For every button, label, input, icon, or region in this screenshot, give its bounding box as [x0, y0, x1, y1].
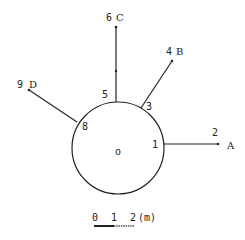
midpoint-marker — [115, 70, 117, 72]
endpoint-6-dot — [115, 26, 118, 29]
point-5-label: 5 — [102, 89, 108, 100]
endpoint-c-label: C — [116, 12, 124, 23]
point-6-label: 6 — [106, 12, 112, 23]
diagram-canvas: o 1 2 A 3 4 B 5 6 C 8 9 D 0 1 2 (m) — [0, 0, 245, 240]
endpoint-d-label: D — [29, 79, 37, 90]
scale-tick-2: 2 — [130, 212, 136, 223]
endpoint-2-dot — [217, 143, 220, 146]
point-4-label: 4 — [166, 46, 172, 57]
scale-tick-1: 1 — [111, 212, 117, 223]
point-3-label: 3 — [146, 101, 152, 112]
point-1-label: 1 — [152, 139, 158, 150]
center-label: o — [115, 146, 121, 157]
endpoint-b-label: B — [176, 46, 183, 57]
scale-bar: 0 1 2 (m) — [92, 212, 156, 226]
endpoint-a-label: A — [226, 140, 235, 151]
scale-tick-0: 0 — [92, 212, 98, 223]
endpoint-4-dot — [171, 60, 174, 63]
point-8-label: 8 — [82, 121, 88, 132]
line-d — [29, 90, 77, 122]
point-2-label: 2 — [212, 127, 218, 138]
point-9-label: 9 — [17, 79, 23, 90]
scale-unit: (m) — [138, 212, 156, 223]
